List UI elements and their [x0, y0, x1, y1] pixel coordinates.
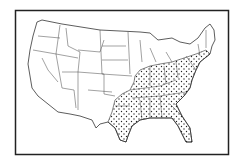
- us-map-figure: [0, 0, 241, 168]
- us-map-svg: [0, 0, 241, 168]
